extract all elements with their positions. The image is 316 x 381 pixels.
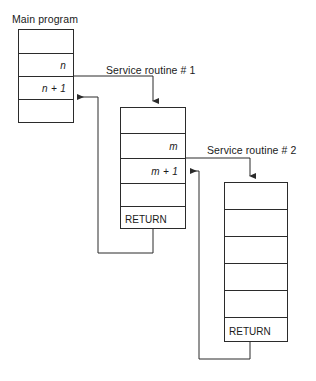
stack-cell <box>225 237 287 264</box>
stack-box-main-program: n n + 1 <box>18 29 74 123</box>
label-service-routine-1: Service routine # 1 <box>106 64 195 76</box>
stack-cell <box>225 264 287 291</box>
stack-cell <box>225 183 287 210</box>
stack-cell-label: RETURN <box>229 325 271 336</box>
stack-cell: m + 1 <box>121 159 185 184</box>
stack-cell: n + 1 <box>19 77 73 100</box>
stack-box-service-routine-1: m m + 1 RETURN <box>120 107 186 229</box>
stack-cell-label: m <box>169 141 178 152</box>
stack-cell-return: RETURN <box>225 318 287 343</box>
stack-cell <box>19 100 73 122</box>
stack-cell: m <box>121 134 185 159</box>
stack-box-service-routine-2: RETURN <box>224 182 288 342</box>
stack-cell-return: RETURN <box>121 207 185 230</box>
label-main-program: Main program <box>12 13 78 25</box>
stack-cell: n <box>19 54 73 77</box>
stack-cell <box>121 184 185 207</box>
label-service-routine-2: Service routine # 2 <box>207 144 296 156</box>
stack-cell <box>225 210 287 237</box>
stack-cell-label: RETURN <box>125 213 167 224</box>
call-arrow-routine1-to-routine2 <box>186 158 250 176</box>
diagram-canvas: Main program Service routine # 1 Service… <box>0 0 316 381</box>
stack-cell <box>225 291 287 318</box>
stack-cell <box>19 30 73 54</box>
stack-cell-label: m + 1 <box>151 166 178 177</box>
stack-cell-label: n + 1 <box>42 83 66 94</box>
stack-cell-label: n <box>60 60 66 71</box>
stack-cell <box>121 108 185 134</box>
